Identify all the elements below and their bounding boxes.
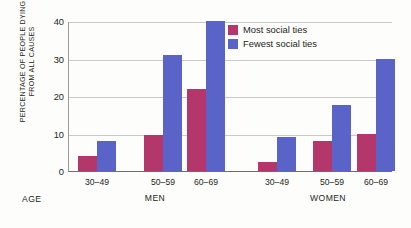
- y-tick-label-20: 20: [54, 92, 64, 102]
- bar-most-social-ties: [78, 156, 97, 171]
- legend-label: Fewest social ties: [243, 38, 317, 49]
- bar-fewest-social-ties: [376, 59, 395, 172]
- bar-fewest-social-ties: [163, 55, 182, 171]
- x-tick-label: 30–49: [251, 177, 303, 187]
- x-axis-title: AGE: [22, 194, 41, 204]
- y-tick-label-40: 40: [54, 17, 64, 27]
- x-tick-label: 60–69: [180, 177, 232, 187]
- bar-most-social-ties: [357, 134, 376, 172]
- bar-most-social-ties: [144, 135, 163, 171]
- bar-most-social-ties: [258, 162, 277, 171]
- legend: Most social ties Fewest social ties: [228, 24, 317, 49]
- section-label-men: MEN: [125, 193, 185, 203]
- bar-fewest-social-ties: [277, 137, 296, 171]
- y-tick-label-0: 0: [59, 167, 64, 177]
- legend-swatch-fewest-social-ties: [228, 39, 238, 49]
- legend-swatch-most-social-ties: [228, 25, 238, 35]
- y-axis-title: PERCENTAGE OF PEOPLE DYING FROM ALL CAUS…: [19, 0, 38, 141]
- x-tick-label: 60–69: [350, 177, 402, 187]
- bar-chart: PERCENTAGE OF PEOPLE DYING FROM ALL CAUS…: [0, 0, 411, 228]
- y-tick-label-30: 30: [54, 55, 64, 65]
- x-tick-label: 30–49: [71, 177, 123, 187]
- legend-item-fewest-social-ties: Fewest social ties: [228, 38, 317, 49]
- gridline-0: 0: [69, 172, 392, 173]
- bar-fewest-social-ties: [332, 105, 351, 171]
- section-label-women: WOMEN: [293, 193, 363, 203]
- bar-most-social-ties: [313, 141, 332, 171]
- y-tick-label-10: 10: [54, 130, 64, 140]
- bar-most-social-ties: [187, 89, 206, 172]
- legend-item-most-social-ties: Most social ties: [228, 24, 317, 35]
- legend-label: Most social ties: [243, 24, 307, 35]
- bar-fewest-social-ties: [206, 21, 225, 171]
- bar-fewest-social-ties: [97, 141, 116, 171]
